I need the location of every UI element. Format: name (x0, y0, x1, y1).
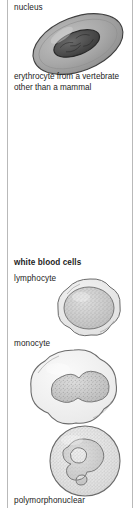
erythrocyte-caption: erythrocyte from a vertebrate other than… (14, 72, 134, 93)
erythrocyte-caption-line2: other than a mammal (14, 83, 91, 92)
white-blood-cells-heading: white blood cells (14, 258, 81, 269)
erythrocyte-illustration (26, 8, 130, 80)
monocyte-illustration (22, 347, 130, 433)
column-rule-left (7, 0, 8, 508)
polymorphonuclear-label: polymorphonuclear (14, 496, 85, 507)
lymphocyte-illustration (50, 276, 130, 342)
erythrocyte-caption-line1: erythrocyte from a vertebrate (14, 72, 119, 81)
figure-column: nucleus (0, 0, 140, 508)
polymorphonuclear-illustration (42, 423, 128, 499)
